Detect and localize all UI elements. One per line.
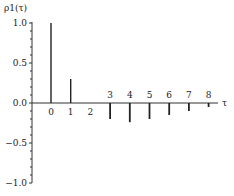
y-tick-label: 1.0: [13, 18, 28, 28]
x-tick-label: 6: [166, 90, 172, 100]
y-axis-label: ρ1(τ): [4, 3, 27, 13]
y-tick-label: 0.0: [13, 98, 28, 108]
x-tick-label: 7: [186, 90, 192, 100]
x-tick-label: 0: [48, 107, 54, 117]
x-tick-label: 5: [147, 90, 153, 100]
x-tick-label: 1: [68, 107, 74, 117]
bars: [51, 23, 209, 122]
x-tick-label: 2: [88, 107, 94, 117]
x-tick-label: 3: [107, 90, 113, 100]
y-tick-label: −1.0: [5, 178, 27, 188]
x-tick-label: 8: [206, 90, 212, 100]
x-axis-label: τ: [222, 98, 227, 108]
x-tick-label: 4: [127, 90, 133, 100]
y-tick-label: 0.5: [13, 58, 28, 68]
autocorrelation-chart: ρ1(τ) τ 1.00.50.0−0.5−1.0 012345678: [0, 0, 234, 196]
y-tick-label: −0.5: [5, 138, 27, 148]
y-ticks: 1.00.50.0−0.5−1.0: [5, 18, 32, 188]
